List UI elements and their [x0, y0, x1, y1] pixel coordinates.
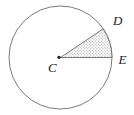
label-point-d: D	[112, 13, 123, 28]
label-point-e: E	[118, 52, 127, 67]
label-center-c: C	[48, 60, 57, 75]
center-point-dot	[57, 56, 60, 59]
circle-diagram: C D E	[0, 0, 134, 115]
circle-sector-figure: C D E	[0, 0, 134, 115]
shaded-sector-cde	[61, 29, 113, 58]
